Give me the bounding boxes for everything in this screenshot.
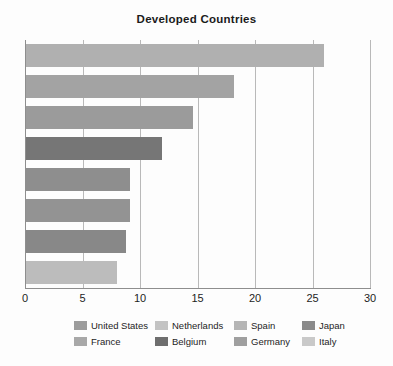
x-tick-label-20: 20 [240, 292, 270, 304]
legend-swatch-icon [302, 337, 315, 346]
gridline-20 [255, 40, 256, 288]
legend-swatch-icon [155, 337, 168, 346]
bar-united-states[interactable] [25, 44, 324, 67]
legend-swatch-icon [234, 337, 247, 346]
legend-label: Spain [251, 320, 275, 331]
legend-label: Belgium [172, 336, 206, 347]
legend-swatch-icon [74, 321, 87, 330]
legend-swatch-icon [234, 321, 247, 330]
bar-belgium[interactable] [25, 137, 162, 160]
legend-item-germany[interactable]: Germany [234, 334, 290, 348]
legend-label: United States [91, 320, 148, 331]
legend-item-belgium[interactable]: Belgium [155, 334, 206, 348]
bar-germany[interactable] [25, 199, 130, 222]
x-tick-label-0: 0 [10, 292, 40, 304]
legend-item-spain[interactable]: Spain [234, 318, 275, 332]
legend-item-united-states[interactable]: United States [74, 318, 148, 332]
x-tick-label-30: 30 [355, 292, 385, 304]
legend-swatch-icon [155, 321, 168, 330]
legend-label: Netherlands [172, 320, 223, 331]
x-tick-label-5: 5 [68, 292, 98, 304]
bar-france[interactable] [25, 75, 234, 98]
chart-legend: United StatesNetherlandsSpainJapanFrance… [74, 318, 374, 350]
legend-label: France [91, 336, 121, 347]
legend-row: United StatesNetherlandsSpainJapan [74, 318, 374, 332]
legend-item-netherlands[interactable]: Netherlands [155, 318, 223, 332]
bar-italy[interactable] [25, 261, 117, 284]
bar-japan[interactable] [25, 230, 126, 253]
legend-label: Germany [251, 336, 290, 347]
legend-item-france[interactable]: France [74, 334, 121, 348]
bar-netherlands[interactable] [25, 106, 193, 129]
legend-item-italy[interactable]: Italy [302, 334, 336, 348]
legend-label: Italy [319, 336, 336, 347]
y-axis-line [25, 40, 26, 288]
legend-swatch-icon [74, 337, 87, 346]
chart-title: Developed Countries [0, 13, 393, 25]
x-axis-line [25, 288, 371, 289]
legend-swatch-icon [302, 321, 315, 330]
bar-spain[interactable] [25, 168, 130, 191]
legend-label: Japan [319, 320, 345, 331]
x-tick-label-15: 15 [183, 292, 213, 304]
bar-chart: Developed Countries United StatesNetherl… [0, 0, 393, 366]
legend-item-japan[interactable]: Japan [302, 318, 345, 332]
x-tick-label-10: 10 [125, 292, 155, 304]
plot-area [25, 40, 370, 288]
gridline-25 [313, 40, 314, 288]
gridline-30 [370, 40, 371, 288]
legend-row: FranceBelgiumGermanyItaly [74, 334, 374, 348]
x-tick-label-25: 25 [298, 292, 328, 304]
